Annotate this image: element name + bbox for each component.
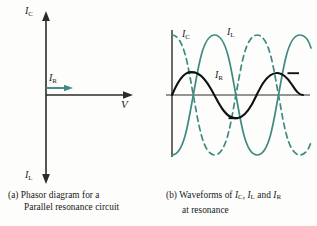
caption-a-line2: Parallel resonance circuit [8, 201, 158, 213]
waveform-label-ic: IC [182, 29, 190, 41]
waveform-label-il: IL [227, 27, 235, 39]
phasor-label-il: IL [25, 170, 33, 182]
il-arrowhead-icon [42, 174, 50, 184]
panel-waveforms: IC IL IR (b) Waveforms of IC, IL and IR … [158, 0, 317, 226]
ic-arrowhead-icon [42, 11, 50, 21]
phasor-label-ic: IC [25, 6, 33, 18]
panel-phasor-diagram: IC IL IR V (a) Phasor diagram for a Para… [0, 0, 158, 226]
caption-a-line1: (a) Phasor diagram for a [8, 190, 100, 200]
phasor-label-ir: IR [49, 73, 57, 85]
caption-b-line1: (b) Waveforms of [166, 190, 235, 200]
caption-panel-a: (a) Phasor diagram for a Parallel resona… [0, 189, 158, 214]
caption-b-line2: at resonance [166, 204, 317, 216]
waveform-label-ir: IR [215, 70, 223, 82]
figure-root: IC IL IR V (a) Phasor diagram for a Para… [0, 0, 317, 226]
caption-panel-b: (b) Waveforms of IC, IL and IR at resona… [158, 189, 317, 216]
ir-arrowhead-icon [64, 85, 73, 91]
caption-b-items: IC, IL and IR [235, 190, 281, 200]
phasor-label-v: V [121, 99, 128, 110]
phasor-diagram-plot [0, 0, 158, 190]
